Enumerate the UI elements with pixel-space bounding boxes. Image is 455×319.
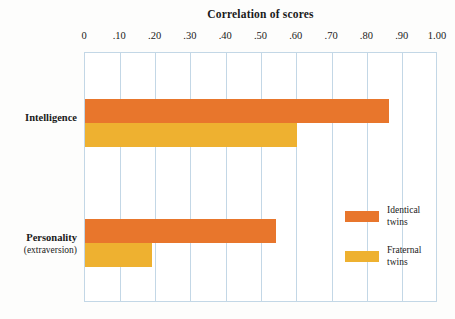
category-label-sub: (extraversion)	[0, 244, 77, 256]
category-label-personality: Personality(extraversion)	[0, 231, 77, 256]
category-label-main: Personality	[0, 231, 77, 244]
twin-correlation-bar-chart: Correlation of scores 0.10.20.30.40.50.6…	[0, 0, 455, 319]
legend-label: Identicaltwins	[387, 205, 420, 228]
legend-swatch	[345, 251, 379, 262]
chart-legend: IdenticaltwinsFraternaltwins	[345, 205, 450, 285]
category-label-main: Intelligence	[0, 111, 77, 124]
category-label-intelligence: Intelligence	[0, 111, 77, 124]
legend-item-identical-twins: Identicaltwins	[345, 205, 450, 245]
legend-label-line2: twins	[387, 257, 421, 269]
legend-label: Fraternaltwins	[387, 245, 421, 268]
legend-label-line1: Fraternal	[387, 245, 421, 257]
legend-swatch	[345, 211, 379, 222]
legend-item-fraternal-twins: Fraternaltwins	[345, 245, 450, 285]
legend-label-line1: Identical	[387, 205, 420, 217]
legend-label-line2: twins	[387, 217, 420, 229]
